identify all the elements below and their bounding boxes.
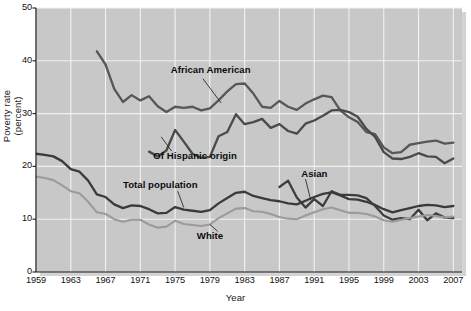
y-tick-label: 50 bbox=[6, 2, 32, 12]
series-annotation-asian: Asian bbox=[301, 168, 327, 179]
series-annotation-total-population: Total population bbox=[123, 179, 198, 190]
series-annotation-white: White bbox=[197, 230, 223, 241]
plot-panel bbox=[36, 8, 462, 272]
series-annotation-of-hispanic-origin: Of Hispanic origin bbox=[153, 150, 237, 161]
y-tick-label: 10 bbox=[6, 213, 32, 223]
y-tick-label: 0 bbox=[6, 266, 32, 276]
y-axis-title: Poverty rate (percent) bbox=[1, 73, 23, 159]
x-tick-label: 2007 bbox=[433, 275, 471, 285]
y-tick-label: 40 bbox=[6, 55, 32, 65]
x-axis-title: Year bbox=[0, 292, 471, 303]
poverty-rate-line-chart: 1959196319671971197519791983198719911995… bbox=[0, 0, 471, 311]
series-annotation-african-american: African American bbox=[171, 64, 251, 75]
y-tick-label: 20 bbox=[6, 160, 32, 170]
